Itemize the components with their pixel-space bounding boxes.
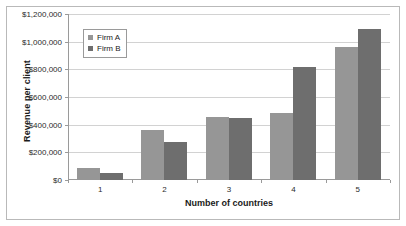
bar-firm-a-4 [270, 113, 293, 180]
bar-firm-a-3 [206, 117, 229, 180]
x-axis-tick-label: 4 [291, 185, 295, 194]
legend-swatch-icon [88, 46, 93, 51]
bar-chart: Revenue per client $0$200,000$400,000$60… [0, 0, 406, 226]
bar-firm-b-5 [358, 29, 381, 180]
x-axis-tick-mark [390, 180, 391, 183]
y-axis-tick-label: $200,000 [29, 148, 62, 157]
x-axis-tick-mark [197, 180, 198, 183]
x-axis-tick-label: 5 [356, 185, 360, 194]
y-axis-tick-label: $800,000 [29, 65, 62, 74]
x-axis-tick-label: 2 [162, 185, 166, 194]
y-axis-tick-label: $1,000,000 [22, 37, 62, 46]
legend-entry: Firm B [88, 43, 121, 54]
x-axis-tick-label: 3 [227, 185, 231, 194]
x-axis-tick-mark [68, 180, 69, 183]
y-axis-tick-label: $1,200,000 [22, 10, 62, 19]
x-axis-tick-labels: 12345 [68, 180, 390, 198]
bar-firm-b-2 [164, 142, 187, 180]
y-axis-tick-label: $600,000 [29, 93, 62, 102]
chart-legend: Firm AFirm B [83, 29, 127, 58]
legend-swatch-icon [88, 35, 93, 40]
bar-firm-b-1 [100, 173, 123, 180]
bar-firm-a-1 [77, 168, 100, 180]
legend-label: Firm B [97, 43, 121, 54]
x-axis-tick-mark [261, 180, 262, 183]
bar-firm-b-3 [229, 118, 252, 180]
bar-group [261, 14, 325, 180]
x-axis-tick-mark [132, 180, 133, 183]
legend-entry: Firm A [88, 32, 121, 43]
bar-group [326, 14, 390, 180]
legend-label: Firm A [97, 32, 120, 43]
y-axis-tick-labels: $0$200,000$400,000$600,000$800,000$1,000… [14, 14, 66, 180]
bar-firm-a-2 [141, 130, 164, 180]
bar-firm-b-4 [293, 67, 316, 180]
x-axis-tick-label: 1 [98, 185, 102, 194]
y-axis-tick-label: $0 [53, 176, 62, 185]
bar-group [197, 14, 261, 180]
bar-group [132, 14, 196, 180]
x-axis-tick-mark [326, 180, 327, 183]
y-axis-tick-label: $400,000 [29, 120, 62, 129]
x-axis-title: Number of countries [68, 198, 390, 208]
bar-firm-a-5 [335, 47, 358, 180]
